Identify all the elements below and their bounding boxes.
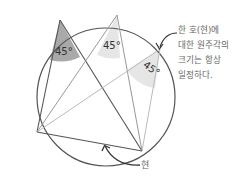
chord-arrow [105, 146, 140, 165]
angle-wedge-2 [97, 15, 120, 58]
annotation-arrowhead-icon [156, 43, 163, 49]
annotation-line-2: 대한 원주각의 [178, 38, 240, 53]
annotation-line-3: 크기는 항상 [178, 53, 240, 68]
angle-label-2: 45° [103, 40, 121, 51]
side-a-v3 [37, 49, 160, 132]
annotation-line-1: 한 호(현)에 [178, 23, 240, 38]
annotation-text: 한 호(현)에 대한 원주각의 크기는 항상 일정하다. [178, 23, 240, 83]
chord-label: 현 [141, 158, 149, 171]
annotation-line-4: 일정하다. [178, 68, 240, 83]
angle-label-1: 45° [55, 46, 73, 57]
